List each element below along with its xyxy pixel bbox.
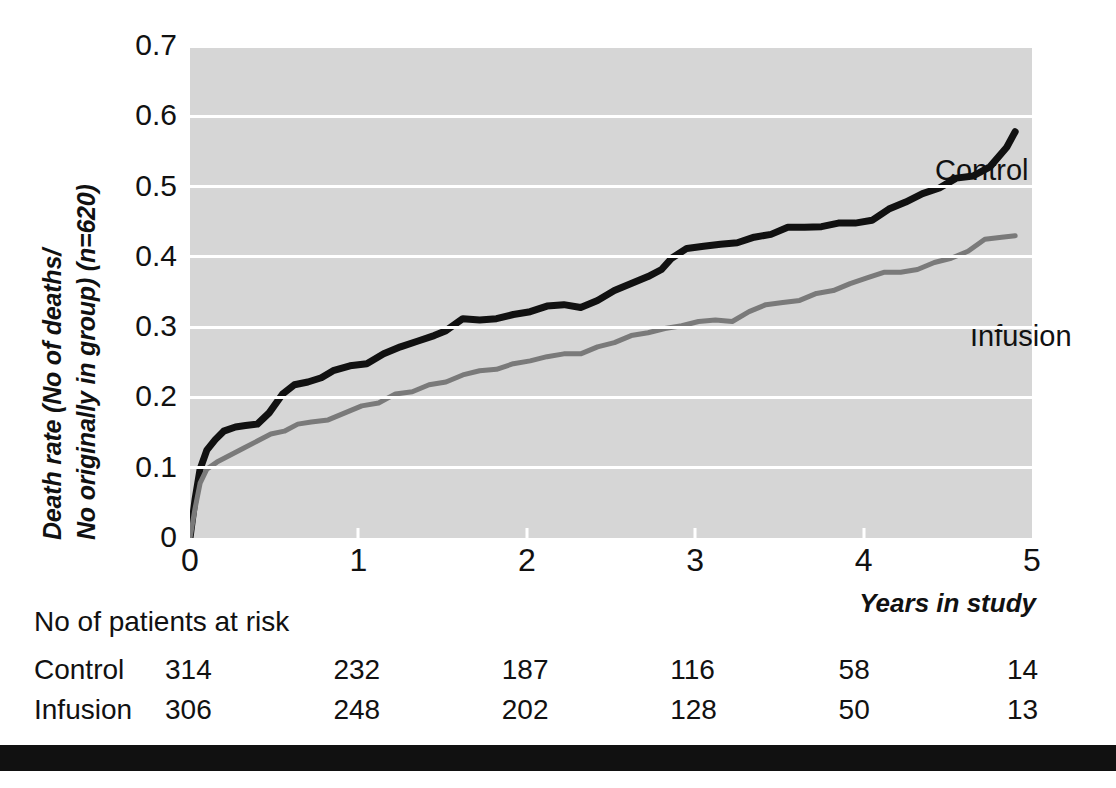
risk-table-title: No of patients at risk	[34, 606, 289, 638]
risk-row-value: 232	[333, 654, 380, 686]
chart-canvas	[190, 46, 1032, 538]
gridline	[190, 255, 1032, 258]
x-axis-tick-mark	[357, 528, 360, 542]
risk-row-value: 128	[670, 694, 717, 726]
y-axis-tick-label: 0.3	[95, 311, 177, 341]
risk-row-label: Control	[34, 654, 124, 686]
x-axis-tick-mark	[694, 528, 697, 542]
x-axis-tick-label: 1	[349, 544, 367, 576]
x-axis-title: Years in study	[859, 588, 1036, 619]
x-axis-tick-label: 0	[181, 544, 199, 576]
risk-row-value: 13	[1007, 694, 1038, 726]
series-label-control: Control	[935, 154, 1029, 187]
x-axis-tick-mark	[525, 528, 528, 542]
gridline	[190, 185, 1032, 188]
risk-row-value: 116	[670, 654, 715, 686]
gridline	[190, 45, 1032, 48]
y-axis-tick-label: 0.5	[95, 171, 177, 201]
risk-row-value: 202	[502, 694, 549, 726]
chart-figure: Death rate (No of deaths/ No originally …	[0, 0, 1116, 788]
risk-table-row: Control3142321871165814	[34, 654, 1094, 690]
risk-row-value: 306	[165, 694, 212, 726]
risk-row-value: 14	[1007, 654, 1038, 686]
risk-row-value: 248	[333, 694, 380, 726]
risk-row-value: 187	[502, 654, 549, 686]
risk-table-row: Infusion3062482021285013	[34, 694, 1094, 730]
y-axis-tick-label: 0.4	[95, 241, 177, 271]
risk-row-value: 314	[165, 654, 212, 686]
y-axis-tick-label: 0.7	[95, 30, 177, 60]
gridline	[190, 466, 1032, 469]
y-axis-tick-label: 0.2	[95, 381, 177, 411]
series-line-control	[190, 132, 1015, 538]
bottom-rule	[0, 745, 1116, 771]
x-axis-tick-label: 3	[686, 544, 704, 576]
gridline	[190, 115, 1032, 118]
risk-row-label: Infusion	[34, 694, 132, 726]
x-axis-tick-mark	[862, 528, 865, 542]
x-axis-tick-label: 4	[855, 544, 873, 576]
y-axis-title-line-1: Death rate (No of deaths/	[38, 249, 67, 540]
risk-row-value: 50	[839, 694, 870, 726]
y-axis-tick-label: 0.6	[95, 100, 177, 130]
risk-row-value: 58	[839, 654, 870, 686]
x-axis-tick-labels: 012345	[0, 544, 1116, 590]
x-axis-tick-label: 2	[518, 544, 536, 576]
gridline	[190, 396, 1032, 399]
series-line-infusion	[190, 236, 1015, 538]
plot-area: Control Infusion	[190, 46, 1032, 538]
y-axis-tick-label: 0.1	[95, 452, 177, 482]
gridline	[190, 326, 1032, 329]
x-axis-tick-label: 5	[1023, 544, 1041, 576]
